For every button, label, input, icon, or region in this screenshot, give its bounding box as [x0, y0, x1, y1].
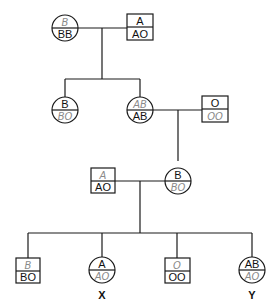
svg-text:A: A [136, 15, 144, 27]
gen4-son2-male: O OO [165, 258, 190, 283]
svg-text:AB: AB [132, 99, 147, 110]
svg-text:AO: AO [95, 181, 111, 193]
svg-text:AO: AO [94, 271, 110, 282]
gen1-mother-female: B BB [52, 15, 78, 41]
svg-text:BO: BO [171, 182, 186, 193]
svg-text:BO: BO [58, 111, 73, 122]
gen4-daughter-x-female: A AO X [89, 257, 115, 301]
svg-text:AO: AO [244, 271, 260, 282]
svg-text:A: A [98, 258, 106, 270]
svg-text:BO: BO [20, 271, 36, 283]
gen4-daughter-y-female: AB AO Y [239, 257, 265, 301]
svg-text:B: B [61, 98, 68, 110]
gen2-daughter1-female: B BO [52, 97, 78, 123]
gen3-daughter-female: B BO [165, 168, 191, 194]
pedigree-chart: B BB A AO B BO AB AB O OO A AO B [0, 0, 280, 306]
gen4-son1-male: B BO [16, 258, 40, 283]
label-x: X [98, 289, 106, 301]
gen1-father-male: A AO [127, 14, 153, 40]
svg-text:OO: OO [168, 271, 186, 283]
gen3-spouse-male: A AO [91, 168, 115, 193]
svg-text:O: O [211, 97, 220, 109]
svg-text:AB: AB [133, 110, 148, 122]
svg-text:A: A [99, 170, 107, 181]
svg-text:B: B [62, 17, 69, 28]
svg-text:OO: OO [207, 111, 223, 122]
svg-text:AO: AO [132, 28, 148, 40]
svg-text:O: O [173, 260, 181, 271]
svg-text:B: B [25, 260, 32, 271]
svg-text:AB: AB [245, 258, 260, 270]
gen2-spouse-male: O OO [202, 96, 228, 122]
svg-text:BB: BB [58, 28, 73, 40]
gen2-daughter2-female: AB AB [127, 97, 153, 123]
svg-text:B: B [174, 169, 181, 181]
label-y: Y [248, 289, 256, 301]
